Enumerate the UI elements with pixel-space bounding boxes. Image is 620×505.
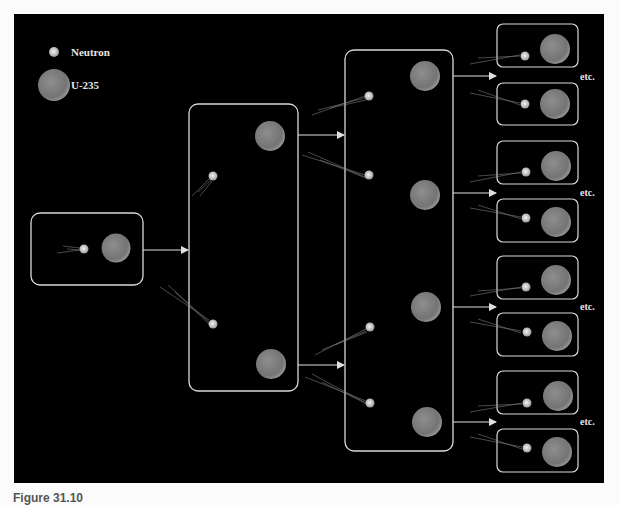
legend: Neutron U-235 — [38, 46, 110, 101]
neutron-icon — [521, 100, 530, 109]
neutron-icon — [366, 323, 375, 332]
stage-4-box — [470, 141, 578, 184]
neutron-trail-icon — [305, 374, 367, 404]
neutron-icon — [522, 214, 531, 223]
neutron-trail-icon — [192, 178, 212, 196]
neutron-trail-icon — [470, 287, 521, 296]
stage-3-box — [302, 50, 453, 451]
etc-label: etc. — [580, 301, 595, 312]
legend-u235-icon — [38, 69, 70, 101]
neutron-trail-icon — [470, 172, 521, 182]
stage-4-box — [470, 199, 578, 242]
u235-nucleus-icon — [542, 437, 572, 467]
neutron-icon — [523, 399, 532, 408]
neutron-trail-icon — [470, 205, 521, 219]
stage-4-box — [470, 83, 578, 125]
neutron-trail-icon — [470, 403, 522, 412]
neutron-icon — [209, 172, 218, 181]
u235-nucleus-icon — [542, 321, 572, 351]
neutron-icon — [365, 92, 374, 101]
legend-u235-label: U-235 — [71, 79, 100, 91]
neutron-icon — [521, 52, 530, 61]
u235-nucleus-icon — [410, 61, 440, 91]
stage-4-box — [470, 429, 578, 472]
u235-nucleus-icon — [256, 349, 286, 379]
figure-caption: Figure 31.10 — [13, 491, 83, 505]
neutron-icon — [366, 399, 375, 408]
neutron-icon — [522, 283, 531, 292]
u235-nucleus-icon — [543, 381, 573, 411]
stage-4-boxes: etc. etc. — [470, 24, 595, 472]
u235-nucleus-icon — [411, 292, 441, 322]
neutron-trail-icon — [57, 246, 80, 253]
legend-neutron-label: Neutron — [71, 46, 110, 58]
stage-2-box — [160, 104, 298, 391]
u235-nucleus-icon — [255, 121, 285, 151]
legend-neutron-icon — [49, 47, 59, 57]
u235-nucleus-icon — [412, 407, 442, 437]
neutron-trail-icon — [302, 152, 366, 178]
neutron-icon — [80, 245, 89, 254]
neutron-trail-icon — [470, 90, 520, 105]
neutron-trail-icon — [470, 55, 520, 64]
neutron-trail-icon — [160, 285, 209, 324]
stage-4-box — [470, 24, 578, 67]
neutron-trail-icon — [470, 434, 522, 449]
neutron-icon — [209, 320, 218, 329]
neutron-trail-icon — [312, 96, 366, 115]
u235-nucleus-icon — [541, 151, 571, 181]
stage-4-box — [470, 371, 578, 414]
etc-label: etc. — [580, 71, 595, 82]
etc-label: etc. — [580, 187, 595, 198]
u235-nucleus-icon — [102, 234, 131, 263]
neutron-icon — [365, 171, 374, 180]
u235-nucleus-icon — [540, 34, 570, 64]
diagram-canvas: Neutron U-235 — [14, 14, 604, 483]
u235-nucleus-icon — [540, 89, 570, 119]
stage-4-box — [470, 256, 578, 299]
neutron-icon — [522, 168, 531, 177]
etc-label: etc. — [580, 416, 595, 427]
neutron-icon — [523, 328, 532, 337]
stage-4-box — [470, 313, 578, 356]
neutron-icon — [523, 444, 532, 453]
stage-1-box — [31, 213, 143, 285]
u235-nucleus-icon — [541, 207, 571, 237]
u235-nucleus-icon — [541, 265, 571, 295]
chain-reaction-diagram: Neutron U-235 — [14, 14, 604, 483]
neutron-trail-icon — [470, 319, 521, 333]
u235-nucleus-icon — [410, 180, 440, 210]
neutron-trail-icon — [315, 329, 367, 355]
